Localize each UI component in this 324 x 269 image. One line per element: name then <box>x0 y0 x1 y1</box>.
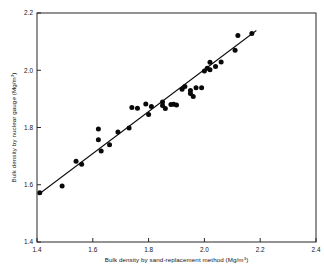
x-tick-label: 1.6 <box>88 246 97 253</box>
x-tick-label: 1.8 <box>144 246 153 253</box>
y-axis-title: Bulk density by nuclear gauge (Mg/m3) <box>10 72 17 182</box>
x-tick-label: 2.4 <box>312 246 321 253</box>
y-tick-label: 1.6 <box>24 181 33 188</box>
y-tick-label: 2.0 <box>24 67 33 74</box>
data-point <box>127 126 132 131</box>
x-tick-label: 2.0 <box>200 246 209 253</box>
data-point <box>233 48 238 53</box>
data-point <box>199 85 204 90</box>
data-point <box>129 105 134 110</box>
plot-frame <box>37 13 316 242</box>
data-point <box>213 64 218 69</box>
data-point <box>135 106 140 111</box>
data-point <box>182 84 187 89</box>
data-point <box>191 94 196 99</box>
data-point <box>79 162 84 167</box>
data-point <box>174 102 179 107</box>
scatter-plot-figure: 1.41.61.82.02.22.4 1.41.61.82.02.2 Bulk … <box>0 0 324 269</box>
y-tick-label: 1.4 <box>24 238 33 245</box>
data-point <box>219 59 224 64</box>
y-tick-label: 2.2 <box>24 9 33 16</box>
data-point <box>37 190 42 195</box>
data-point <box>207 60 212 65</box>
data-point <box>96 126 101 131</box>
x-axis-title: Bulk density by sand-replacement method … <box>105 256 249 263</box>
data-point <box>74 159 79 164</box>
data-point <box>60 183 65 188</box>
data-point <box>149 104 154 109</box>
data-point <box>207 67 212 72</box>
x-axis-ticks <box>37 238 316 242</box>
y-axis-tick-labels: 1.41.61.82.02.2 <box>24 9 33 245</box>
data-point <box>107 142 112 147</box>
data-point <box>99 148 104 153</box>
data-point <box>163 106 168 111</box>
x-tick-label: 2.2 <box>256 246 265 253</box>
y-axis-ticks <box>37 13 41 242</box>
data-point <box>249 31 254 36</box>
x-axis-tick-labels: 1.41.61.82.02.22.4 <box>33 246 321 253</box>
x-tick-label: 1.4 <box>33 246 42 253</box>
data-point <box>235 33 240 38</box>
data-point <box>115 130 120 135</box>
y-tick-label: 1.8 <box>24 124 33 131</box>
data-point <box>143 102 148 107</box>
data-point <box>96 137 101 142</box>
data-point <box>194 85 199 90</box>
plot-frame-border <box>37 13 316 242</box>
data-point <box>146 112 151 117</box>
